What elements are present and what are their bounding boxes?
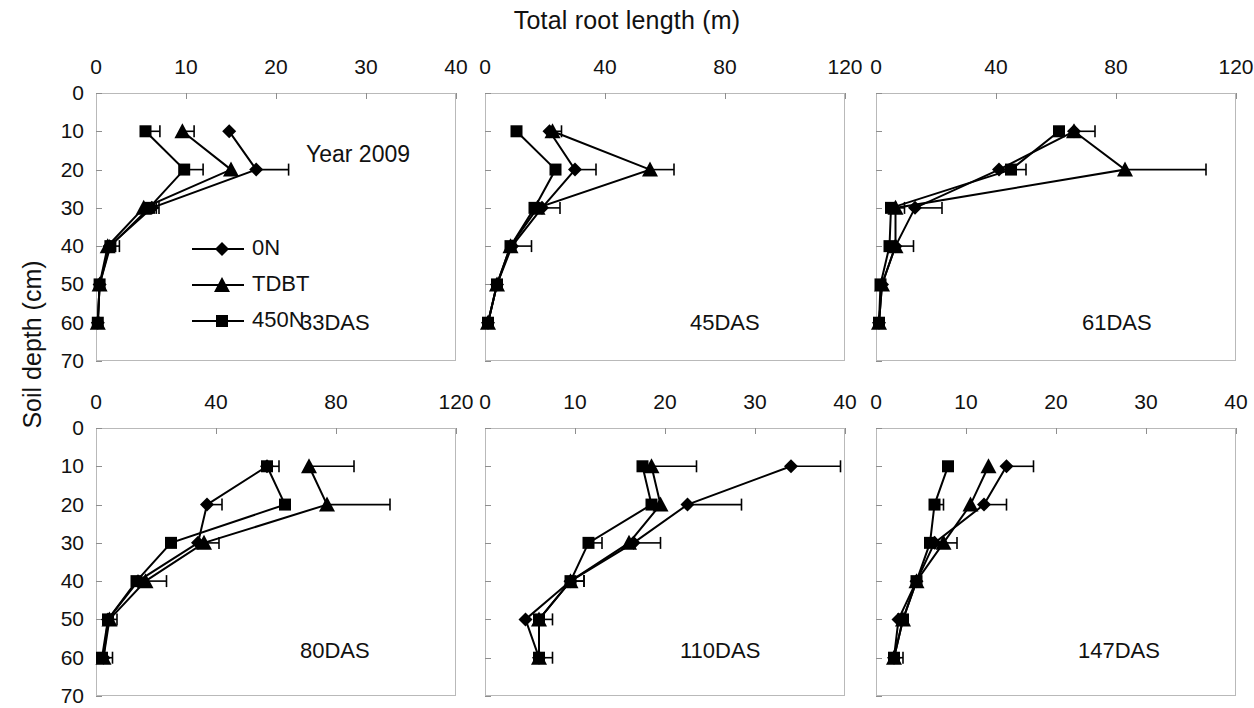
legend-label: TDBT (252, 271, 309, 297)
legend-item-0n[interactable]: 0N (192, 233, 422, 263)
legend: 0NTDBT450N (192, 233, 422, 343)
year-annotation: Year 2009 (306, 141, 410, 168)
panel-label: 147DAS (1078, 638, 1160, 664)
panel-147das: 010203040147DAS (0, 0, 1254, 708)
root-length-figure: Total root length (m) Soil depth (cm) 01… (0, 0, 1254, 708)
legend-item-450n[interactable]: 450N (192, 305, 422, 335)
legend-item-tdbt[interactable]: TDBT (192, 269, 422, 299)
diamond-marker-icon (212, 239, 232, 259)
triangle-marker-icon (212, 275, 232, 295)
legend-label: 450N (252, 307, 305, 333)
series-layer (0, 0, 1254, 708)
legend-label: 0N (252, 235, 280, 261)
square-marker-icon (212, 311, 232, 331)
